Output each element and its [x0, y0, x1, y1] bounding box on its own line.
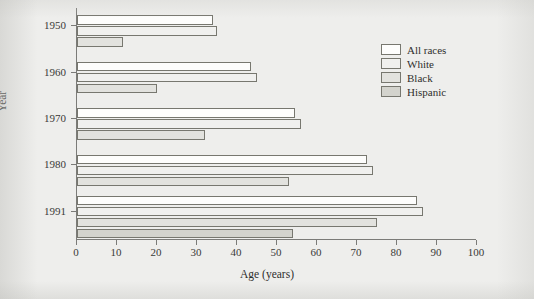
legend-swatch-white: [381, 58, 401, 69]
x-axis-tick-label: 0: [56, 246, 96, 259]
legend-swatch-hispanic: [381, 86, 401, 97]
x-axis-tick: [316, 240, 317, 245]
bar: [77, 130, 205, 140]
bar: [77, 218, 377, 228]
bar: [77, 108, 295, 118]
legend-item: Hispanic: [381, 85, 446, 98]
y-axis-tick: [71, 211, 76, 212]
x-axis-tick: [236, 240, 237, 245]
x-axis-tick-label: 50: [256, 246, 296, 259]
y-axis-tick-label: 1991: [0, 205, 66, 217]
bar: [77, 15, 213, 25]
bar: [77, 26, 217, 36]
legend-item-label: White: [407, 58, 434, 70]
x-axis-tick: [196, 240, 197, 245]
x-axis-tick: [436, 240, 437, 245]
x-axis-tick: [116, 240, 117, 245]
x-axis-tick: [396, 240, 397, 245]
x-axis-tick-label: 40: [216, 246, 256, 259]
legend-item-label: Hispanic: [407, 86, 446, 98]
bar: [77, 119, 301, 129]
legend-item: All races: [381, 43, 446, 56]
x-axis-tick-label: 10: [96, 246, 136, 259]
y-axis-tick: [71, 118, 76, 119]
x-axis-tick: [356, 240, 357, 245]
x-axis-tick-label: 80: [376, 246, 416, 259]
y-axis-tick-label: 1980: [0, 158, 66, 170]
x-axis-tick: [276, 240, 277, 245]
bar: [77, 155, 367, 165]
x-axis-tick: [476, 240, 477, 245]
x-axis-tick-label: 60: [296, 246, 336, 259]
x-axis-tick-label: 90: [416, 246, 456, 259]
bar: [77, 207, 423, 217]
bar: [77, 196, 417, 206]
y-axis-tick: [71, 72, 76, 73]
bar: [77, 62, 251, 72]
legend-item-label: All races: [407, 44, 446, 56]
legend-item: Black: [381, 71, 446, 84]
x-axis-tick-label: 20: [136, 246, 176, 259]
x-axis-tick-label: 100: [456, 246, 496, 259]
y-axis-tick: [71, 25, 76, 26]
x-axis-tick-label: 70: [336, 246, 376, 259]
y-axis-tick-label: 1970: [0, 112, 66, 124]
y-axis-tick-label: 1950: [0, 19, 66, 31]
bar: [77, 229, 293, 239]
y-axis-tick-label: 1960: [0, 66, 66, 78]
x-axis-tick: [156, 240, 157, 245]
bar: [77, 73, 257, 83]
bar: [77, 37, 123, 47]
bar: [77, 84, 157, 94]
bar: [77, 177, 289, 187]
bar: [77, 166, 373, 176]
x-axis-tick-label: 30: [176, 246, 216, 259]
legend-item-label: Black: [407, 72, 433, 84]
legend-swatch-all-races: [381, 44, 401, 55]
legend: All racesWhiteBlackHispanic: [381, 43, 446, 99]
x-axis-title: Age (years): [0, 268, 534, 280]
y-axis-title: Year: [0, 91, 8, 112]
bar-chart-figure: 0102030405060708090100 Age (years) 19501…: [0, 0, 534, 299]
legend-item: White: [381, 57, 446, 70]
y-axis-tick: [71, 164, 76, 165]
x-axis-tick: [76, 240, 77, 245]
legend-swatch-black: [381, 72, 401, 83]
